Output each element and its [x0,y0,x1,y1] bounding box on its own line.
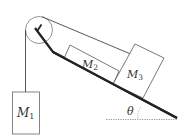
block-m3 [113,44,164,98]
pulley-incline-diagram: M1 M2 M3 θ [0,0,187,138]
incline-string [42,17,133,55]
angle-theta-label: θ [127,105,134,118]
angle-arc [138,107,141,119]
incline-top-tick [38,25,42,31]
pulley [26,17,53,44]
